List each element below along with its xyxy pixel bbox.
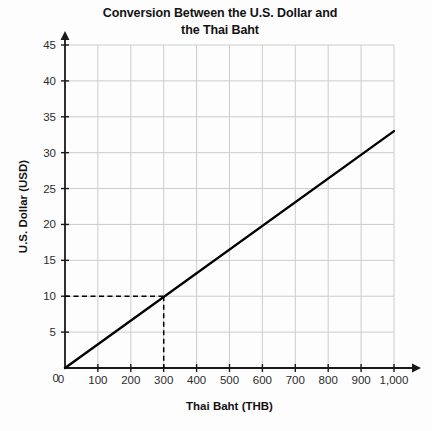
y-tick-label: 0	[53, 372, 59, 384]
x-tick-labels: 01002003004005006007008009001,000	[58, 373, 409, 386]
x-tick-label: 1,000	[380, 374, 409, 386]
y-tick-label: 10	[43, 290, 56, 302]
y-axis-title: U.S. Dollar (USD)	[17, 160, 29, 253]
y-tick-label: 30	[43, 147, 56, 159]
y-tick-label: 45	[43, 39, 56, 51]
x-axis-arrowhead	[412, 364, 421, 373]
y-tick-labels: 051015202530354045	[43, 39, 59, 384]
y-tick-label: 20	[43, 218, 56, 230]
x-tick-label: 300	[154, 374, 173, 386]
x-tick-label: 200	[121, 374, 140, 386]
chart-container: Conversion Between the U.S. Dollar and t…	[0, 0, 432, 431]
y-tick-label: 25	[43, 183, 56, 195]
chart-plot: 01002003004005006007008009001,000 051015…	[0, 0, 432, 431]
y-tick-label: 35	[43, 111, 56, 123]
x-tick-label: 900	[352, 374, 371, 386]
x-tick-label: 100	[88, 374, 107, 386]
y-axis-arrowhead	[61, 31, 70, 40]
axes	[61, 31, 422, 373]
x-tick-label: 500	[220, 374, 239, 386]
tick-marks	[61, 45, 394, 372]
x-tick-label: 700	[286, 374, 305, 386]
x-axis-title: Thai Baht (THB)	[186, 400, 273, 412]
gridlines	[65, 45, 394, 368]
y-tick-label: 5	[50, 326, 56, 338]
y-tick-label: 15	[43, 254, 56, 266]
y-tick-label: 40	[43, 75, 56, 87]
x-tick-label: 400	[187, 374, 206, 386]
x-tick-label: 800	[319, 374, 338, 386]
x-tick-label: 600	[253, 374, 272, 386]
